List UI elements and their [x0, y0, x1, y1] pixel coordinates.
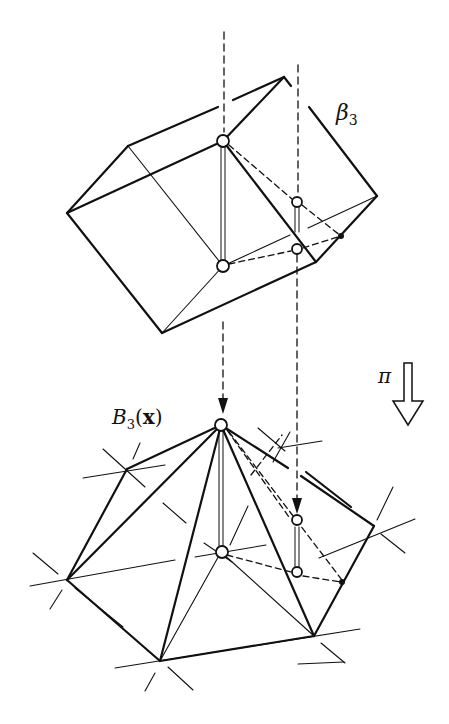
B3x-label: B3(x): [112, 405, 163, 432]
diagram-canvas: [0, 0, 449, 724]
tiling-small-vertex-upper: [292, 515, 302, 525]
prism-vertex-lower: [217, 260, 229, 272]
beta3-label: β3: [336, 100, 358, 128]
prism-beta3: [67, 77, 377, 333]
pi-projection-arrow: [393, 363, 423, 425]
prism-small-vertex-upper: [292, 197, 302, 207]
projection-figure: β3 B3(x) π: [0, 0, 449, 724]
prism-small-vertex-lower: [292, 244, 302, 254]
prism-double-segments: [221, 147, 299, 260]
prism-thin-edges: [128, 146, 377, 333]
prism-vertex-upper: [217, 135, 229, 147]
tiling-dashed-edges: [227, 430, 342, 582]
tiling-vertex-lower: [216, 546, 228, 558]
prism-dot: [338, 233, 344, 239]
pi-label: π: [378, 364, 391, 388]
prism-dashed-edges: [229, 145, 341, 264]
tiling-dot: [339, 579, 345, 585]
arrowheads: [218, 398, 302, 514]
tiling-small-vertex-lower: [292, 567, 302, 577]
tiling-vertex-B3x: [215, 419, 227, 431]
tiling-double-segments: [219, 431, 299, 571]
tiling-bold-edges: [67, 425, 374, 661]
